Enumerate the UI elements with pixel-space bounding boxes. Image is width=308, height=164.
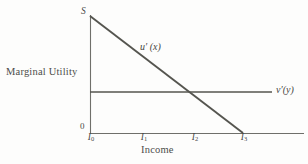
tick-sub-i0: 0 [91,135,94,142]
x-tick-label-i2: I2 [192,133,199,143]
origin-label-zero: 0 [80,122,85,131]
y-axis-max-label-s: S [81,7,86,17]
tick-sub-i1: 1 [144,135,147,142]
x-tick-label-i1: I1 [141,133,148,143]
u-prime-curve-label: u′ (x) [140,42,161,52]
tick-sub-i3: 3 [244,135,247,142]
y-axis-title: Marginal Utility [6,67,78,78]
x-tick-label-i0: I0 [88,133,95,143]
x-tick-label-i3: I3 [241,133,248,143]
tick-sub-i2: 2 [195,135,198,142]
u-prime-line [90,16,243,133]
v-prime-curve-label: v′(y) [276,85,294,95]
plot-canvas [0,0,308,164]
x-axis-title: Income [141,145,174,156]
marginal-utility-diagram: Marginal Utility Income S 0 u′ (x) v′(y)… [0,0,308,164]
